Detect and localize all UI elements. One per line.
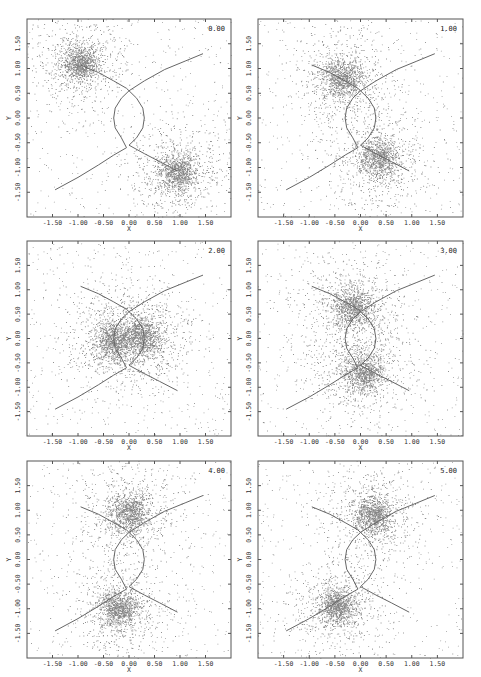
y-axis-label: Y xyxy=(236,557,244,561)
scatter-panel-3: -1.50-1.00-0.500.000.501.001.50-1.50-1.0… xyxy=(258,241,463,436)
y-tick-label: -1.00 xyxy=(245,158,253,178)
panel-time-label: 0.00 xyxy=(208,25,225,33)
x-tick-label: -1.50 xyxy=(43,660,63,668)
y-tick-label: 1.00 xyxy=(14,282,22,298)
y-tick-label: -0.50 xyxy=(245,353,253,373)
plot-frame xyxy=(258,241,463,436)
x-tick-label: -1.00 xyxy=(299,438,319,446)
scatter-points xyxy=(27,242,231,436)
scatter-plot-svg: -1.50-1.00-0.500.000.501.001.50-1.50-1.0… xyxy=(258,19,463,217)
x-tick-label: 1.00 xyxy=(172,438,188,446)
y-tick-label: -0.50 xyxy=(14,133,22,153)
x-tick-label: -0.50 xyxy=(325,438,345,446)
x-axis-label: X xyxy=(127,444,131,452)
x-tick-label: -1.50 xyxy=(43,219,63,227)
plot-frame xyxy=(258,19,463,217)
x-tick-label: -1.00 xyxy=(68,438,88,446)
y-tick-label: -1.00 xyxy=(14,158,22,178)
x-tick-label: 0.50 xyxy=(378,660,394,668)
x-tick-label: 1.00 xyxy=(172,219,188,227)
x-axis-label: X xyxy=(359,444,363,452)
y-tick-label: -1.50 xyxy=(245,624,253,644)
x-tick-label: 1.50 xyxy=(198,660,214,668)
panel-time-label: 5.00 xyxy=(440,467,457,475)
y-tick-label: -0.50 xyxy=(245,133,253,153)
x-tick-label: -0.50 xyxy=(94,438,114,446)
y-tick-label: -1.50 xyxy=(245,182,253,202)
x-axis-label: X xyxy=(359,666,363,674)
x-tick-label: 0.50 xyxy=(147,660,163,668)
y-axis-label: Y xyxy=(236,116,244,120)
trajectory-curve-0 xyxy=(81,65,178,171)
x-tick-label: -0.50 xyxy=(94,660,114,668)
y-tick-label: 0.50 xyxy=(14,306,22,322)
y-tick-label: 1.00 xyxy=(14,61,22,77)
x-tick-label: 1.50 xyxy=(198,219,214,227)
x-tick-label: 0.50 xyxy=(378,219,394,227)
scatter-plot-svg: -1.50-1.00-0.500.000.501.001.50-1.50-1.0… xyxy=(258,241,463,436)
x-tick-label: 1.50 xyxy=(198,438,214,446)
y-tick-label: -1.00 xyxy=(14,599,22,619)
y-tick-label: 1.50 xyxy=(14,257,22,273)
panel-time-label: 3.00 xyxy=(440,247,457,255)
x-tick-label: 1.00 xyxy=(404,219,420,227)
scatter-plot-svg: -1.50-1.00-0.500.000.501.001.50-1.50-1.0… xyxy=(27,461,231,658)
y-tick-label: 0.00 xyxy=(14,552,22,568)
y-tick-label: 1.00 xyxy=(245,502,253,518)
y-tick-label: 0.50 xyxy=(14,527,22,543)
x-tick-label: 0.50 xyxy=(378,438,394,446)
x-tick-label: -1.00 xyxy=(299,219,319,227)
x-tick-label: -1.50 xyxy=(43,438,63,446)
y-tick-label: 0.50 xyxy=(245,85,253,101)
x-tick-label: 1.00 xyxy=(172,660,188,668)
y-tick-label: -1.00 xyxy=(245,377,253,397)
y-tick-label: -1.50 xyxy=(245,402,253,422)
y-axis-label: Y xyxy=(5,336,13,340)
scatter-panel-1: -1.50-1.00-0.500.000.501.001.50-1.50-1.0… xyxy=(258,19,463,217)
y-tick-label: 1.50 xyxy=(245,478,253,494)
y-tick-label: 0.00 xyxy=(245,110,253,126)
y-tick-label: -1.50 xyxy=(14,624,22,644)
y-tick-label: -0.50 xyxy=(14,574,22,594)
x-tick-label: -1.00 xyxy=(68,660,88,668)
y-tick-label: 1.00 xyxy=(245,282,253,298)
y-tick-label: -0.50 xyxy=(14,353,22,373)
y-axis-label: Y xyxy=(5,557,13,561)
panel-time-label: 1.00 xyxy=(440,25,457,33)
x-tick-label: -0.50 xyxy=(325,660,345,668)
trajectory-curve-0 xyxy=(81,507,178,612)
x-tick-label: 1.50 xyxy=(430,438,446,446)
plot-frame xyxy=(27,19,231,217)
scatter-panel-4: -1.50-1.00-0.500.000.501.001.50-1.50-1.0… xyxy=(27,461,231,658)
y-tick-label: 0.50 xyxy=(245,527,253,543)
x-tick-label: -0.50 xyxy=(325,219,345,227)
x-tick-label: 1.00 xyxy=(404,660,420,668)
scatter-plot-svg: -1.50-1.00-0.500.000.501.001.50-1.50-1.0… xyxy=(27,19,231,217)
y-tick-label: 0.00 xyxy=(14,110,22,126)
x-tick-label: 0.50 xyxy=(147,438,163,446)
y-tick-label: -0.50 xyxy=(245,574,253,594)
panel-time-label: 2.00 xyxy=(208,247,225,255)
scatter-panel-2: -1.50-1.00-0.500.000.501.001.50-1.50-1.0… xyxy=(27,241,231,436)
y-axis-label: Y xyxy=(5,116,13,120)
y-tick-label: 1.50 xyxy=(14,36,22,52)
y-tick-label: 1.00 xyxy=(245,61,253,77)
y-tick-label: 0.00 xyxy=(14,331,22,347)
x-tick-label: 1.00 xyxy=(404,438,420,446)
plot-frame xyxy=(258,461,463,658)
x-tick-label: 0.50 xyxy=(147,219,163,227)
y-tick-label: 0.50 xyxy=(245,306,253,322)
y-tick-label: -1.00 xyxy=(245,599,253,619)
y-tick-label: 1.50 xyxy=(245,257,253,273)
x-tick-label: 1.50 xyxy=(430,219,446,227)
y-tick-label: -1.50 xyxy=(14,182,22,202)
x-tick-label: -0.50 xyxy=(94,219,114,227)
scatter-plot-svg: -1.50-1.00-0.500.000.501.001.50-1.50-1.0… xyxy=(27,241,231,436)
x-axis-label: X xyxy=(127,666,131,674)
plot-frame xyxy=(27,461,231,658)
x-axis-label: X xyxy=(359,225,363,233)
y-tick-label: -1.50 xyxy=(14,402,22,422)
y-tick-label: 1.00 xyxy=(14,502,22,518)
x-tick-label: -1.50 xyxy=(274,660,294,668)
x-tick-label: -1.50 xyxy=(274,219,294,227)
